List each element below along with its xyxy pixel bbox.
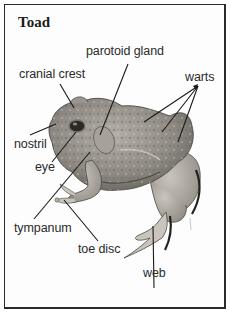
label-web: web <box>143 266 166 280</box>
label-warts: warts <box>185 70 214 84</box>
label-parotoid-gland: parotoid gland <box>86 44 164 58</box>
label-nostril: nostril <box>14 137 47 151</box>
label-toe-disc: toe disc <box>78 242 120 256</box>
label-cranial-crest: cranial crest <box>19 67 85 81</box>
webbed-foot <box>124 212 171 258</box>
label-tympanum: tympanum <box>14 221 72 235</box>
label-eye: eye <box>35 160 55 174</box>
